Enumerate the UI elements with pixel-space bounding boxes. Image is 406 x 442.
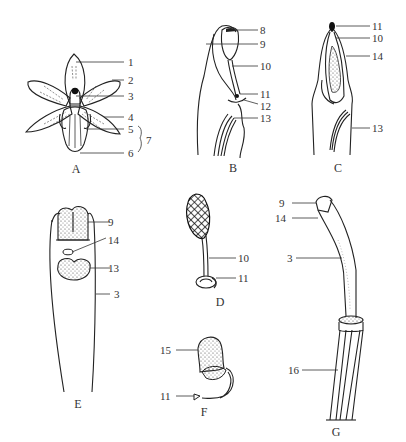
callout-e-3: 3: [114, 288, 120, 300]
panel-label-b: B: [229, 161, 237, 175]
callout-g-16: 16: [288, 364, 300, 376]
callout-b-13: 13: [260, 112, 272, 124]
panel-b-column: [197, 25, 258, 158]
panel-d-pollinium: [187, 194, 236, 288]
callout-a-3: 3: [128, 90, 134, 102]
callout-a-1: 1: [128, 56, 134, 68]
orchid-diagram: 1 2 3 4 5 6 7 A 8 9 10 11 12 13 B: [0, 0, 406, 442]
callout-c-11: 11: [372, 20, 383, 32]
panel-label-c: C: [334, 161, 342, 175]
callout-g-3: 3: [287, 252, 293, 264]
panel-f-anther-cap: [176, 337, 233, 400]
panel-label-d: D: [216, 295, 225, 309]
panel-e-column-front: [50, 207, 110, 392]
callout-b-9: 9: [260, 38, 266, 50]
callout-b-12: 12: [260, 100, 271, 112]
callout-f-11: 11: [160, 390, 171, 402]
panel-c-column-section: [312, 22, 370, 155]
callout-b-10: 10: [260, 60, 272, 72]
panel-label-a: A: [72, 162, 81, 176]
callout-d-11: 11: [238, 272, 249, 284]
callout-a-5: 5: [128, 123, 134, 135]
panel-label-e: E: [74, 397, 81, 411]
panel-a-flower: [26, 54, 141, 153]
callout-e-9: 9: [108, 216, 114, 228]
callout-a-7: 7: [146, 134, 152, 146]
callout-c-10: 10: [372, 32, 384, 44]
callout-e-13: 13: [108, 262, 120, 274]
panel-label-g: G: [332, 425, 341, 439]
callout-f-15: 15: [160, 344, 172, 356]
callout-a-4: 4: [128, 111, 134, 123]
callout-b-8: 8: [260, 24, 266, 36]
callout-a-6: 6: [128, 147, 134, 159]
callout-c-14: 14: [372, 50, 384, 62]
callout-d-10: 10: [238, 252, 250, 264]
callout-c-13: 13: [372, 122, 384, 134]
callout-g-9: 9: [279, 197, 285, 209]
callout-b-11: 11: [260, 88, 271, 100]
callout-a-2: 2: [128, 74, 134, 86]
callout-g-14: 14: [275, 212, 287, 224]
panel-label-f: F: [201, 405, 208, 419]
panel-g-column-ovary: [292, 196, 363, 420]
callout-e-14: 14: [108, 234, 120, 246]
